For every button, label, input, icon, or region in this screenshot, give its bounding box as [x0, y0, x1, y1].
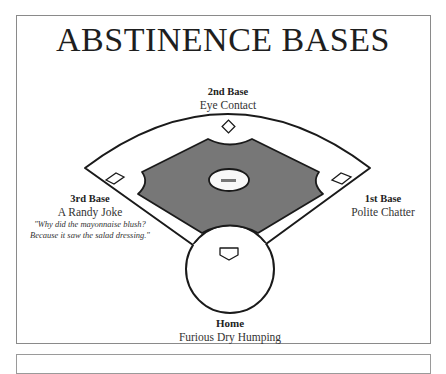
first-base-label: 1st Base Polite Chatter: [338, 192, 428, 219]
second-base-activity: Eye Contact: [173, 98, 283, 112]
pitchers-rubber: [221, 179, 236, 182]
home-activity: Furious Dry Humping: [168, 330, 292, 344]
third-base-label: 3rd Base A Randy Joke "Why did the mayon…: [18, 192, 162, 241]
second-base-name: 2nd Base: [173, 85, 283, 98]
third-base-joke-line1: "Why did the mayonnaise blush?: [18, 219, 162, 230]
home-label: Home Furious Dry Humping: [168, 317, 292, 344]
third-base-activity: A Randy Joke: [18, 205, 162, 219]
first-base-activity: Polite Chatter: [338, 205, 428, 219]
first-base-name: 1st Base: [338, 192, 428, 205]
second-base-label: 2nd Base Eye Contact: [173, 85, 283, 112]
third-base-joke-line2: Because it saw the salad dressing.": [18, 230, 162, 241]
third-base-name: 3rd Base: [18, 192, 162, 205]
home-name: Home: [168, 317, 292, 330]
